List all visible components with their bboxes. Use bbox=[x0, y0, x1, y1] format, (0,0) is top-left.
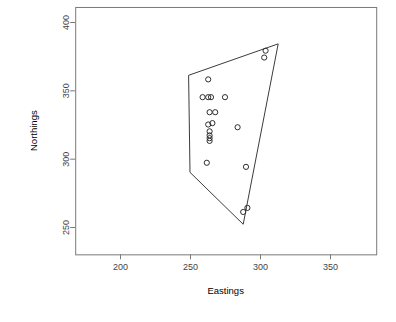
x-tick-label: 300 bbox=[253, 262, 268, 272]
x-tick-label: 250 bbox=[183, 262, 198, 272]
y-tick-label: 400 bbox=[61, 15, 71, 30]
x-tick-label: 200 bbox=[113, 262, 128, 272]
x-tick-label: 350 bbox=[323, 262, 338, 272]
y-tick-label: 350 bbox=[61, 83, 71, 98]
x-axis-title: Eastings bbox=[207, 285, 244, 296]
y-axis-title: Northings bbox=[28, 110, 39, 151]
chart-figure: 250300350400 200250300350 Eastings North… bbox=[0, 0, 396, 322]
y-tick-label: 300 bbox=[61, 152, 71, 167]
scatter-plot-canvas: 250300350400 200250300350 Eastings North… bbox=[0, 0, 396, 322]
y-tick-label: 250 bbox=[61, 220, 71, 235]
figure-background bbox=[0, 0, 396, 322]
